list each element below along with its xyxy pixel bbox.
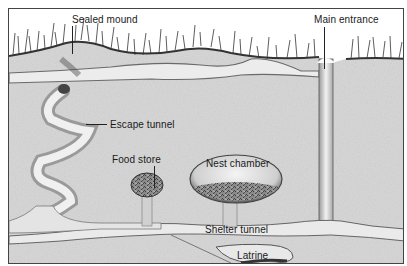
latrine-label: Latrine <box>237 251 268 261</box>
main-entrance-label: Main entrance <box>314 15 379 25</box>
food-store-leader <box>154 166 155 188</box>
sealed-mound-label: Sealed mound <box>72 15 138 25</box>
escape-tunnel-leader <box>86 124 107 125</box>
main-entrance-leader <box>324 27 325 69</box>
food-store <box>131 173 163 197</box>
shelter-tunnel-label: Shelter tunnel <box>205 225 268 235</box>
sealed-mound-leader <box>72 26 73 54</box>
escape-tunnel-label: Escape tunnel <box>110 120 175 130</box>
main-entrance-shaft <box>319 59 333 227</box>
nest-chamber-label: Nest chamber <box>206 159 269 169</box>
food-store-label: Food store <box>112 155 161 165</box>
diagram-frame: Sealed mound Main entrance Escape tunnel… <box>8 8 404 264</box>
